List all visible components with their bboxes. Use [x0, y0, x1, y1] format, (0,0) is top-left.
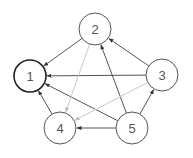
node-label: 3: [158, 68, 165, 83]
node-5: 5: [116, 112, 148, 144]
edge-5-to-3: [140, 90, 154, 114]
node-1: 1: [14, 60, 46, 92]
edge-3-to-2: [109, 39, 149, 66]
graph-canvas: 12345: [0, 0, 193, 158]
edge-2-to-1: [44, 38, 82, 66]
node-label: 2: [91, 22, 98, 37]
node-label: 5: [128, 121, 135, 136]
node-label: 4: [56, 121, 63, 136]
edge-3-to-1: [47, 75, 146, 76]
nodes-group: 12345: [14, 13, 178, 144]
node-label: 1: [26, 69, 33, 84]
node-3: 3: [146, 59, 178, 91]
edge-2-to-4: [66, 44, 90, 112]
edge-4-to-1: [39, 91, 53, 114]
edge-5-to-2: [101, 45, 126, 113]
node-2: 2: [79, 13, 111, 45]
node-4: 4: [44, 112, 76, 144]
